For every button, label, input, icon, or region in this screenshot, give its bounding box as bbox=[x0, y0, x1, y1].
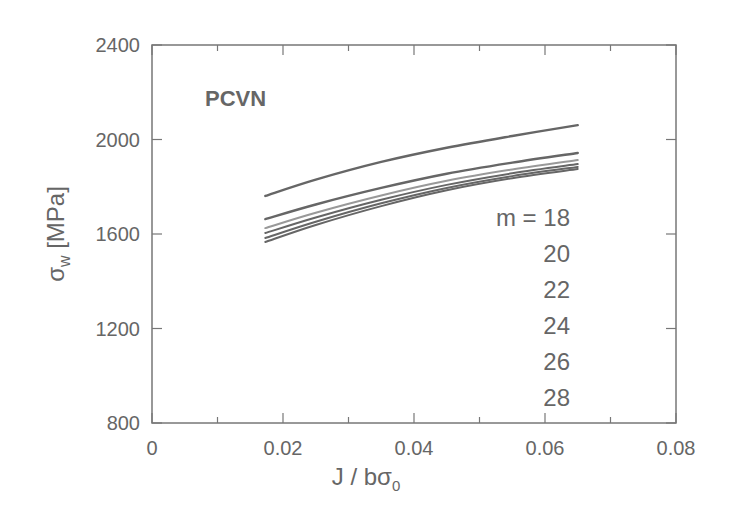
m-label-18: m = 18 bbox=[496, 204, 570, 231]
x-tick-label: 0.04 bbox=[395, 437, 434, 459]
m-label-24: 24 bbox=[543, 312, 570, 339]
y-tick-label: 2400 bbox=[96, 34, 141, 56]
m-label-20: 20 bbox=[543, 240, 570, 267]
m-labels: m = 182022242628 bbox=[496, 204, 570, 411]
y-tick-label: 1600 bbox=[96, 223, 141, 245]
x-tick-label: 0.06 bbox=[526, 437, 565, 459]
y-tick-label: 2000 bbox=[96, 129, 141, 151]
chart-title: PCVN bbox=[205, 86, 266, 111]
y-axis-title: σw [MPa] bbox=[42, 186, 73, 282]
x-tick-label: 0 bbox=[146, 437, 157, 459]
tick-labels: 00.020.040.060.088001200160020002400 bbox=[96, 34, 696, 459]
y-tick-label: 1200 bbox=[96, 318, 141, 340]
x-axis-title-main: J / bσ bbox=[332, 463, 392, 490]
m-label-28: 28 bbox=[543, 384, 570, 411]
m-label-22: 22 bbox=[543, 276, 570, 303]
y-axis-title-sigma: σ bbox=[42, 267, 69, 282]
x-axis-title: J / bσ0 bbox=[332, 463, 401, 494]
y-axis-title-unit: [MPa] bbox=[42, 186, 69, 255]
y-tick-label: 800 bbox=[107, 412, 140, 434]
y-axis-title-sub: w bbox=[56, 255, 73, 268]
m-label-26: 26 bbox=[543, 348, 570, 375]
x-tick-label: 0.02 bbox=[264, 437, 303, 459]
x-axis-title-sub: 0 bbox=[392, 477, 400, 494]
x-tick-label: 0.08 bbox=[657, 437, 696, 459]
chart: 00.020.040.060.088001200160020002400 m =… bbox=[0, 0, 732, 526]
